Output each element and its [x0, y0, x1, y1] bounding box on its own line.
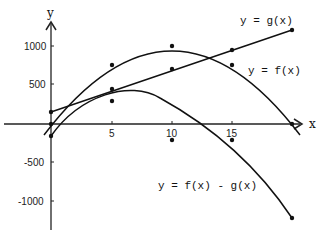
- label-f-minus-g: y = f(x) - g(x): [158, 180, 257, 192]
- y-tick-label: 500: [29, 79, 46, 90]
- y-axis-label: y: [46, 6, 54, 20]
- y-tick-label: -1000: [18, 196, 44, 207]
- points-f-minus-g: [49, 99, 294, 220]
- x-tick-label: 5: [109, 128, 115, 139]
- curve-f-minus-g: [51, 90, 292, 218]
- function-chart: y x 5 10 15 1000 500 -500 -1000: [0, 0, 326, 232]
- y-tick-label: -500: [24, 157, 44, 168]
- y-tick-label: 1000: [24, 41, 47, 52]
- x-tick-label: 10: [166, 128, 178, 139]
- x-tick-label: 15: [226, 128, 238, 139]
- x-axis-label: x: [309, 117, 316, 131]
- points-f: [49, 44, 294, 126]
- label-g: y = g(x): [240, 15, 293, 27]
- label-f: y = f(x): [248, 65, 301, 77]
